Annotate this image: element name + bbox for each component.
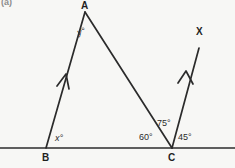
vertex-label-x: X [196, 27, 203, 37]
part-label: (a) [1, 0, 12, 7]
angle-label-75: 75° [157, 119, 171, 128]
vertex-label-b: B [42, 153, 49, 163]
vertex-label-a: A [81, 1, 88, 11]
angle-label-45: 45° [178, 133, 192, 142]
angle-label-60: 60° [139, 133, 153, 142]
geometry-figure: (a) A B C X y° x° 75° 60° 45° [0, 0, 235, 168]
vertex-label-c: C [168, 153, 175, 163]
angle-label-x: x° [55, 134, 63, 143]
